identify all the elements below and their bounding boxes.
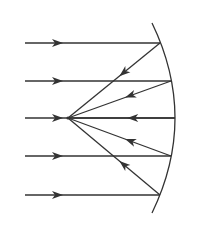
reflected-arrow-icon xyxy=(124,135,137,146)
rays-group xyxy=(25,39,175,199)
reflected-ray xyxy=(68,81,171,118)
reflected-arrow-icon xyxy=(124,90,137,101)
focal-point xyxy=(66,116,69,119)
ray-diagram xyxy=(0,0,198,228)
reflected-ray xyxy=(68,118,171,156)
